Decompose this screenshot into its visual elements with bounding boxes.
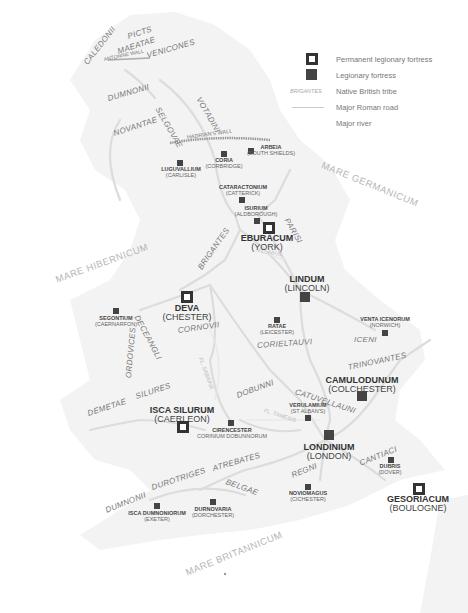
town-modern: (SOUTH SHIELDS) [247, 151, 295, 157]
town-isca-dumnoniorum[interactable]: ISCA DUMNONIORUM (EXETER) [128, 511, 186, 522]
legend-label-river: Major river [336, 119, 371, 128]
town-gesoriacum[interactable]: GESORIACUM (BOULOGNE) [387, 495, 449, 513]
legionary-fortress-icon [306, 69, 317, 80]
town-londinium[interactable]: LONDINIUM (LONDON) [304, 443, 355, 461]
fortress-icon-cirencester [228, 420, 234, 426]
town-coria[interactable]: CORIA (CORBRIDGE) [206, 158, 243, 169]
town-modern: (CARLISLE) [161, 173, 201, 179]
town-cirencester[interactable]: CIRENCESTER CORINIUM DOBUNNORUM [197, 428, 267, 439]
town-modern: (CICHESTER) [289, 497, 327, 503]
town-noviomagus[interactable]: NOVIOMAGUS (CICHESTER) [289, 491, 327, 502]
town-modern: (ST ALBAN'S) [289, 409, 326, 415]
town-modern: (CAERNARFON) [95, 322, 137, 328]
town-modern: (DOVER) [378, 470, 401, 476]
town-modern: CORINIUM DOBUNNORUM [197, 434, 267, 440]
fortress-icon-lindum [300, 292, 310, 302]
fortress-icon-verulamium [305, 415, 311, 421]
legend-label-permanent: Permanent legionary fortress [336, 55, 432, 64]
town-modern: (CHESTER) [163, 313, 212, 322]
town-lindum[interactable]: LINDUM (LINCOLN) [284, 275, 329, 293]
road-line-icon [292, 107, 324, 108]
legend-label-road: Major Roman road [336, 103, 398, 112]
fortress-icon-isurium [254, 218, 260, 224]
town-ratae[interactable]: RATAE (LEICESTER) [260, 324, 294, 335]
town-isurium[interactable]: ISURIUM (ALDBOROUGH) [235, 206, 278, 217]
town-durnovaria[interactable]: DURNOVARIA (DORCHESTER) [192, 507, 234, 518]
tribe-iceni: ICENI [354, 336, 377, 344]
fortress-icon-londinium [324, 430, 334, 440]
town-eburacum[interactable]: EBURACUM (YORK) [241, 234, 294, 252]
fortress-icon-durnovaria [210, 499, 216, 505]
fortress-icon-venta-icenorum [382, 330, 388, 336]
small-dot [224, 573, 226, 575]
town-venta-icenorum[interactable]: VENTA ICENORUM (NORWICH) [360, 317, 410, 328]
permanent-fortress-icon-isca-silurum [177, 421, 189, 433]
town-modern: (BOULOGNE) [387, 504, 449, 513]
legend-label-fortress: Legionary fortress [336, 71, 396, 80]
town-verulamium[interactable]: VERULAMIUM (ST ALBAN'S) [289, 403, 326, 414]
fortress-icon-cataractonium [239, 197, 245, 203]
fortress-icon-segontium [113, 308, 119, 314]
town-modern: (LONDON) [304, 452, 355, 461]
town-modern: (DORCHESTER) [192, 513, 234, 519]
permanent-fortress-icon-deva [181, 291, 193, 303]
town-modern: (CATTERICK) [219, 191, 267, 197]
town-modern: (ALDBOROUGH) [235, 212, 278, 218]
town-modern: (NORWICH) [360, 323, 410, 329]
town-dubris[interactable]: DUBRIS (DOVER) [378, 464, 401, 475]
map-canvas [0, 0, 468, 613]
fortress-icon-camulodunum [357, 391, 367, 401]
town-modern: (YORK) [241, 243, 294, 252]
permanent-fortress-icon [306, 53, 318, 65]
legend-label-tribe: Native British tribe [336, 87, 397, 96]
town-luguvallium[interactable]: LUGUVALLIUM (CARLISLE) [161, 167, 201, 178]
town-arbeia[interactable]: ARBEIA (SOUTH SHIELDS) [247, 145, 295, 156]
town-modern: (EXETER) [128, 517, 186, 523]
legend-tribe-sample: BRIGANTES [290, 89, 322, 95]
fortress-icon-isca-dumnoniorum [154, 503, 160, 509]
town-modern: (LEICESTER) [260, 330, 294, 336]
town-segontium[interactable]: SEGONTIUM (CAERNARFON) [95, 316, 137, 327]
town-modern: (CORBRIDGE) [206, 164, 243, 170]
town-cataractonium[interactable]: CATARACTONIUM (CATTERICK) [219, 185, 267, 196]
town-deva[interactable]: DEVA (CHESTER) [163, 304, 212, 322]
